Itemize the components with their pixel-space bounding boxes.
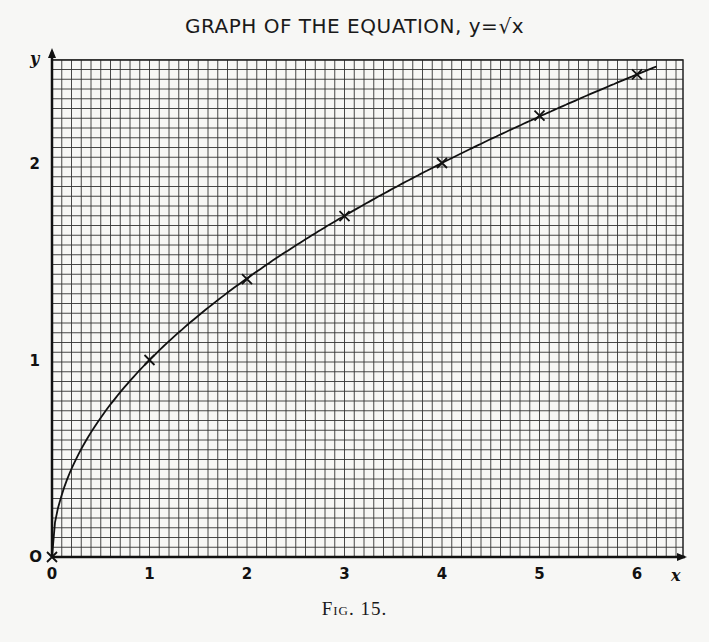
grid-lines bbox=[52, 60, 683, 557]
chart-plot: 012345612Oxy bbox=[0, 0, 709, 642]
x-tick-label: 0 bbox=[47, 565, 57, 583]
x-tick-label: 4 bbox=[437, 565, 447, 583]
y-axis-arrow-icon bbox=[48, 48, 56, 58]
x-tick-label: 3 bbox=[339, 565, 349, 583]
y-tick-label: 2 bbox=[30, 155, 40, 173]
figure-caption: Fig. 15. bbox=[0, 598, 709, 620]
x-tick-label: 1 bbox=[144, 565, 154, 583]
x-tick-label: 2 bbox=[242, 565, 252, 583]
origin-label: O bbox=[29, 548, 42, 566]
x-tick-label: 6 bbox=[632, 565, 642, 583]
x-tick-label: 5 bbox=[534, 565, 544, 583]
y-tick-label: 1 bbox=[30, 352, 40, 370]
x-axis-arrow-icon bbox=[677, 553, 687, 561]
x-axis-label: x bbox=[670, 566, 681, 585]
y-axis-label: y bbox=[29, 49, 41, 68]
